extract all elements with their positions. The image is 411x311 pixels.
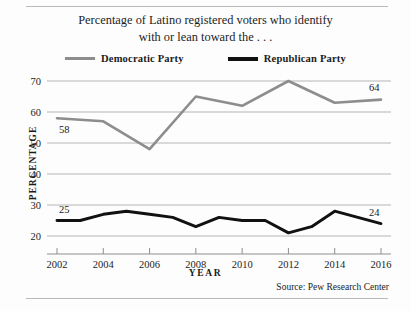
y-tick-label-70: 70: [15, 76, 41, 87]
y-tick-label-20: 20: [15, 231, 41, 242]
y-tick-label-50: 50: [15, 138, 41, 149]
x-tick-label-2006: 2006: [128, 259, 172, 270]
x-tick-label-2016: 2016: [359, 259, 403, 270]
source-note: Source: Pew Research Center: [276, 282, 389, 292]
chart-figure: Percentage of Latino registered voters w…: [0, 0, 411, 311]
democratic-end-value: 64: [369, 82, 380, 93]
x-tick-label-2008: 2008: [174, 259, 218, 270]
y-tick-label-30: 30: [15, 200, 41, 211]
x-tick-label-2012: 2012: [266, 259, 310, 270]
x-tick-label-2014: 2014: [313, 259, 357, 270]
plot-area: PERCENTAGE YEAR 203040506070 20022004200…: [0, 0, 411, 311]
x-tick-label-2010: 2010: [220, 259, 264, 270]
y-tick-label-60: 60: [15, 107, 41, 118]
republican-end-value: 24: [369, 207, 380, 218]
x-tick-label-2004: 2004: [81, 259, 125, 270]
x-tick-label-2002: 2002: [35, 259, 79, 270]
y-tick-label-40: 40: [15, 169, 41, 180]
series-line-democratic-party[interactable]: [57, 81, 381, 149]
series-line-republican-party[interactable]: [57, 211, 381, 233]
democratic-start-value: 58: [59, 124, 70, 135]
republican-start-value: 25: [59, 204, 70, 215]
